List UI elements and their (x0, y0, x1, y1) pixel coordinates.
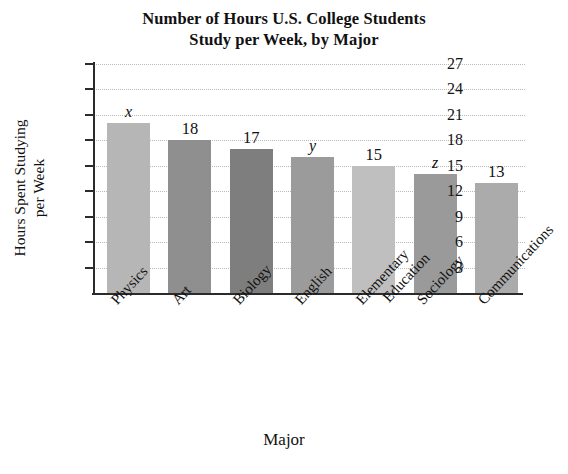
chart-title: Number of Hours U.S. College Students St… (0, 8, 568, 50)
bar-value-label: y (309, 137, 316, 154)
bar-value-label: 17 (243, 129, 260, 146)
y-axis-title-line-1: Hours Spent Studying (10, 119, 29, 256)
y-axis-title-line-2: per Week (29, 119, 48, 256)
y-axis-tick-label: 12 (429, 183, 463, 199)
y-axis-tick-label: 27 (429, 56, 463, 72)
y-axis-tick (85, 165, 95, 167)
y-axis-tick-label: 24 (429, 81, 463, 97)
bar-value-label: 13 (488, 163, 505, 180)
y-axis-tick-label: 21 (429, 107, 463, 123)
y-axis-title-text: Hours Spent Studying per Week (10, 119, 48, 256)
x-axis-title: Major (0, 430, 568, 450)
y-axis-tick (85, 114, 95, 116)
y-axis-tick (85, 190, 95, 192)
y-axis-line (93, 62, 95, 295)
y-axis-tick (85, 241, 95, 243)
bar[interactable]: 18 (168, 140, 211, 293)
y-axis-title: Hours Spent Studying per Week (2, 80, 56, 295)
y-axis-tick (85, 216, 95, 218)
chart-title-line-1: Number of Hours U.S. College Students (0, 8, 568, 29)
x-axis-tick-labels: PhysicsArtBiologyEnglishElementaryEducat… (96, 296, 525, 426)
chart-title-line-2: Study per Week, by Major (0, 29, 568, 50)
y-axis-tick-label: 6 (429, 234, 463, 250)
y-axis-tick-label: 9 (429, 209, 463, 225)
bar-value-label: x (125, 103, 132, 120)
bar-value-label: 15 (366, 146, 383, 163)
y-axis-tick (85, 267, 95, 269)
y-axis-tick (85, 139, 95, 141)
bar-value-label: 18 (182, 120, 199, 137)
y-axis-tick (85, 88, 95, 90)
y-axis-tick-label: 18 (429, 132, 463, 148)
y-axis-tick-label: 15 (429, 158, 463, 174)
y-axis-tick (85, 63, 95, 65)
